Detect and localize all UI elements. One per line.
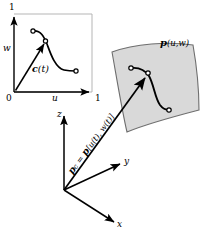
parameter-curve-mid-point [43, 39, 47, 43]
origin-label: 0 [6, 94, 12, 103]
parameter-curve-start-point [31, 29, 35, 33]
surface-patch-shape [112, 43, 199, 132]
figure-canvas: 1 w 0 u 1 c(t) p(u,w) z y x pc = p[u(t),… [0, 0, 219, 236]
surface-curve-end-point [167, 108, 171, 112]
w-axis-label: w [3, 44, 11, 53]
y-axis-label: y [124, 157, 129, 166]
surface-patch-group [112, 43, 199, 132]
surface-curve-mid-point [146, 71, 150, 75]
parameter-curve-label-arg: (t) [38, 63, 49, 74]
w-axis-max-tick: 1 [9, 3, 15, 12]
x-axis-label: x [117, 220, 122, 229]
surface-curve-start-point [129, 66, 133, 70]
parameter-curve-end-point [74, 69, 78, 73]
x-axis-line [64, 190, 114, 222]
z-axis-label: z [57, 110, 62, 119]
surface-patch-label-symbol: p [160, 37, 167, 48]
u-axis-label: u [52, 94, 58, 103]
parameter-curve-label: c(t) [32, 64, 49, 74]
surface-patch-label: p(u,w) [160, 38, 189, 48]
unit-square-border [14, 14, 92, 92]
parameter-square-group [14, 14, 92, 92]
surface-patch-label-arg: (u,w) [167, 38, 189, 48]
u-axis-max-tick: 1 [95, 94, 101, 103]
